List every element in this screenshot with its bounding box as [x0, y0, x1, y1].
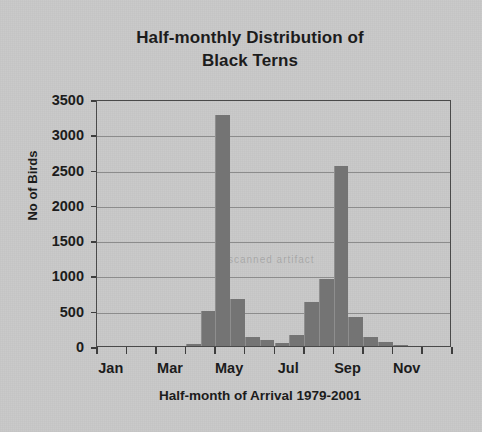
y-axis-tick-label: 1000: [24, 269, 84, 284]
bar: [289, 335, 304, 346]
x-axis-tick-mark: [333, 347, 335, 354]
y-axis-title: No of Birds: [25, 126, 40, 246]
bar: [304, 302, 319, 346]
bar: [319, 279, 334, 346]
bar: [334, 166, 349, 346]
x-axis-tick-mark: [244, 347, 246, 354]
y-axis-tick-label: 3500: [24, 93, 84, 108]
bar: [348, 317, 363, 346]
bar: [275, 343, 290, 346]
x-axis-tick-mark: [274, 347, 276, 354]
x-axis-tick-mark: [392, 347, 394, 354]
chart-figure: Half-monthly Distribution of Black Terns…: [0, 0, 482, 432]
y-axis-tick-label: 3000: [24, 128, 84, 143]
x-axis-tick-mark: [96, 347, 98, 354]
chart-title: Half-monthly Distribution of Black Terns: [60, 26, 440, 72]
bar: [186, 344, 201, 346]
y-axis-tick-label: 500: [24, 305, 84, 320]
x-axis-tick-mark: [451, 347, 453, 354]
y-axis-tick-label: 1500: [24, 234, 84, 249]
x-axis-title: Half-month of Arrival 1979-2001: [60, 388, 460, 403]
y-axis-tick-label: 0: [24, 340, 84, 355]
chart-title-line-2: Black Terns: [60, 49, 440, 72]
x-axis-tick-mark: [421, 347, 423, 354]
bar: [363, 337, 378, 346]
x-axis-tick-label: Nov: [372, 360, 442, 376]
plot-area: [96, 100, 451, 347]
x-axis-tick-mark: [126, 347, 128, 354]
x-axis-tick-mark: [155, 347, 157, 354]
bar: [201, 311, 216, 346]
bar: [378, 342, 393, 346]
x-axis-tick-mark: [214, 347, 216, 354]
bar: [393, 345, 408, 347]
bar: [230, 299, 245, 346]
y-axis-tick-label: 2000: [24, 199, 84, 214]
y-axis-tick-label: 2500: [24, 164, 84, 179]
bar-series: [97, 101, 450, 346]
bar: [260, 340, 275, 346]
x-axis-tick-mark: [362, 347, 364, 354]
x-axis-tick-mark: [303, 347, 305, 354]
bar: [215, 115, 230, 346]
bar: [245, 337, 260, 346]
x-axis-tick-mark: [185, 347, 187, 354]
chart-title-line-1: Half-monthly Distribution of: [60, 26, 440, 49]
